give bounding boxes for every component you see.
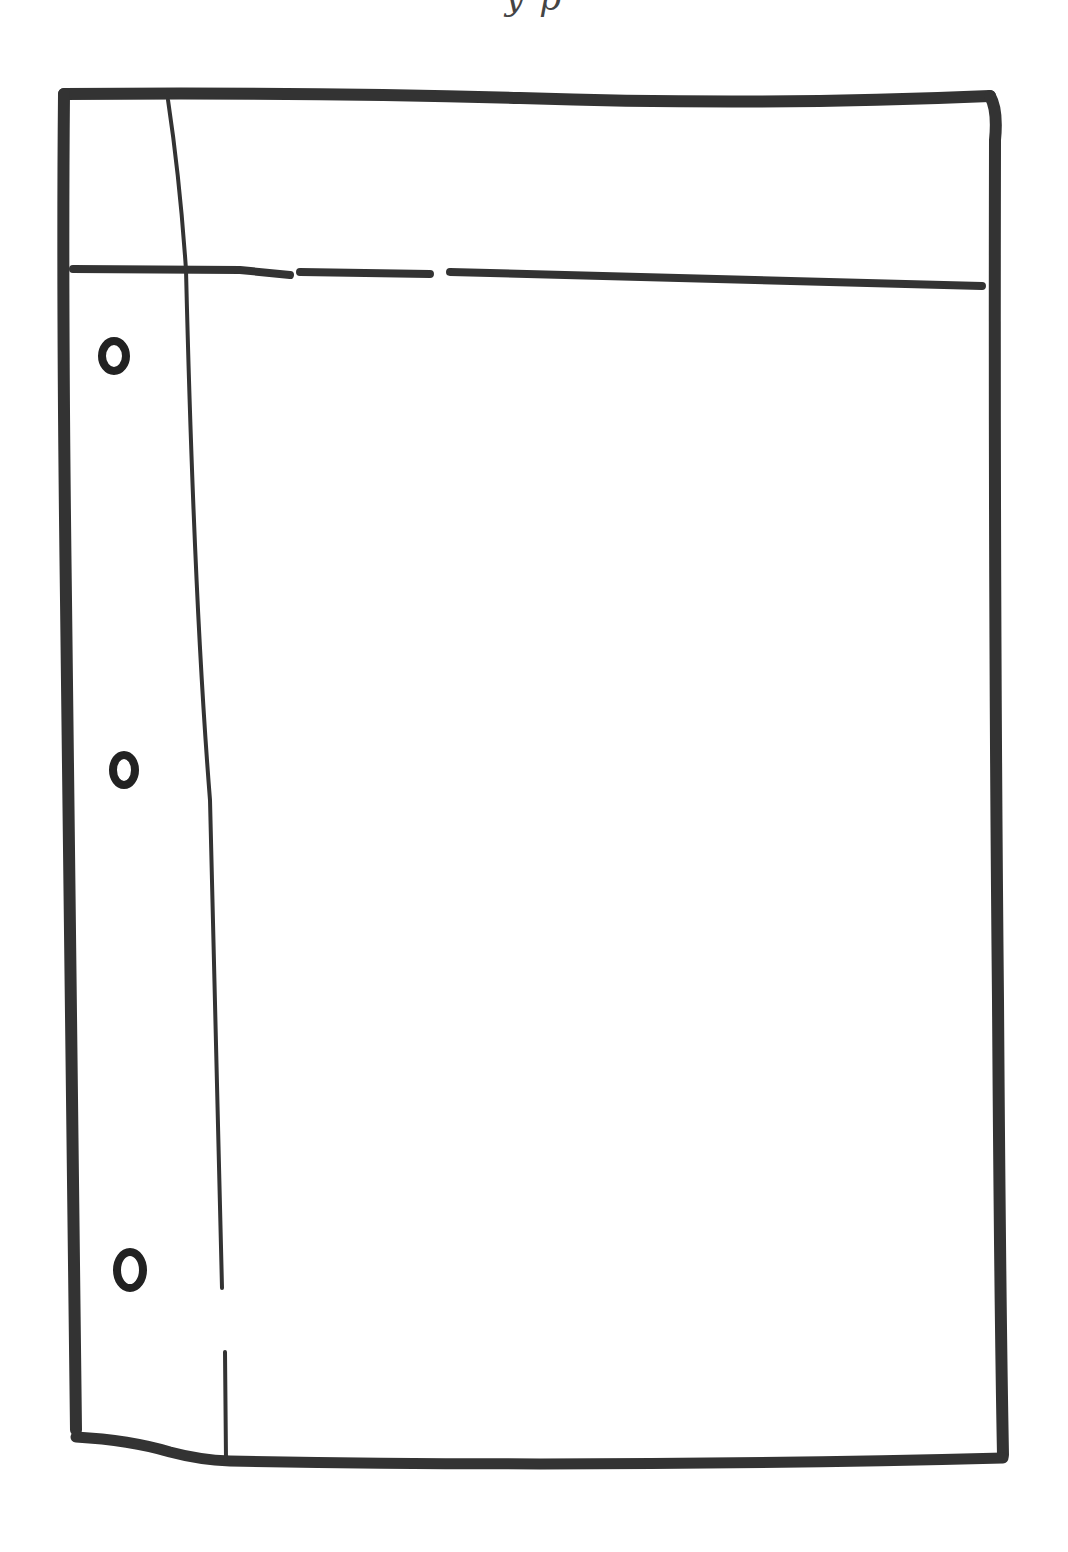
margin-line xyxy=(168,100,222,1288)
outer-border-left xyxy=(63,94,76,1430)
binder-hole-bottom xyxy=(117,1252,143,1288)
header-line xyxy=(73,269,982,286)
outer-border-right xyxy=(990,96,1003,1455)
margin-line-bottom xyxy=(225,1352,226,1460)
binder-hole-middle xyxy=(113,755,135,785)
outer-border-top xyxy=(64,94,990,102)
outer-border-bottom xyxy=(76,1437,1003,1464)
notebook-page-sketch xyxy=(0,0,1068,1552)
binder-hole-top xyxy=(102,341,126,371)
